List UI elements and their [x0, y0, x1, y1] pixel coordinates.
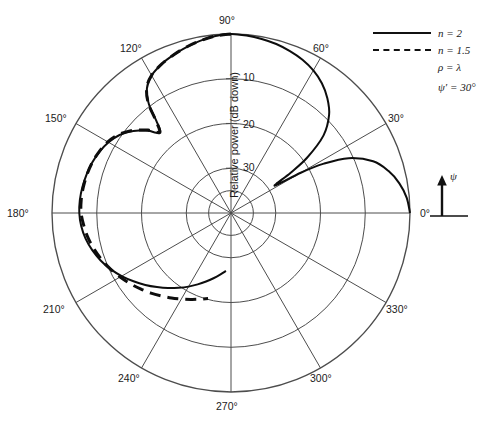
- radial-axis-title: Relative power (dB down): [228, 72, 240, 198]
- legend: n = 2 n = 1.5 ρ = λ ψ′ = 30°: [352, 24, 480, 95]
- legend-solid-line-icon: [373, 32, 431, 34]
- polar-chart-figure: 0° 30° 60° 90° 120° 150° 180° 210° 240° …: [0, 0, 485, 426]
- legend-item-psi-prime: ψ′ = 30°: [352, 78, 480, 95]
- orientation-indicator: ψ: [428, 172, 480, 228]
- legend-item-n15: n = 1.5: [352, 41, 480, 58]
- angle-label-240: 240°: [118, 372, 140, 384]
- angle-label-90: 90°: [219, 14, 235, 26]
- angle-label-210: 210°: [43, 303, 65, 315]
- legend-item-n2: n = 2: [352, 24, 480, 41]
- radial-tick-30: 30: [243, 161, 255, 173]
- angle-label-150: 150°: [45, 112, 67, 124]
- legend-label-psi-prime: ψ′ = 30°: [438, 81, 480, 93]
- angle-label-120: 120°: [120, 42, 142, 54]
- angle-label-270: 270°: [216, 400, 238, 412]
- legend-label-n2: n = 2: [438, 27, 480, 39]
- radial-tick-20: 20: [243, 118, 255, 130]
- angle-label-60: 60°: [313, 42, 329, 54]
- angle-label-330: 330°: [386, 303, 408, 315]
- angle-label-300: 300°: [310, 372, 332, 384]
- legend-label-rho: ρ = λ: [438, 61, 480, 73]
- angle-label-30: 30°: [388, 112, 404, 124]
- legend-dashed-line-icon: [373, 49, 431, 51]
- legend-item-rho: ρ = λ: [352, 58, 480, 75]
- radial-tick-10: 10: [243, 71, 255, 83]
- angle-label-180: 180°: [7, 207, 29, 219]
- psi-arrow-label: ψ: [450, 170, 457, 182]
- legend-label-n15: n = 1.5: [438, 44, 480, 56]
